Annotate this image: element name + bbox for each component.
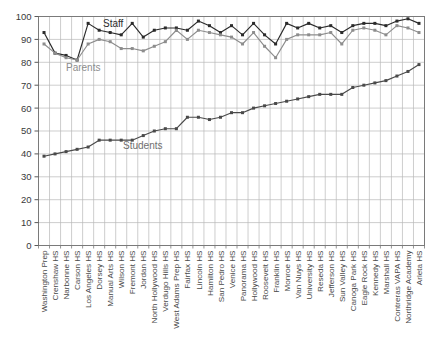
data-point-marker <box>175 29 178 32</box>
data-point-marker <box>54 152 57 155</box>
x-tick-label: Dorsey HS <box>95 250 104 290</box>
x-tick-label: Van Nuys HS <box>294 250 303 299</box>
series-annotation-staff: Staff <box>103 18 124 29</box>
x-tick-label: Roosevelt HS <box>261 250 270 300</box>
data-point-marker <box>131 22 134 25</box>
x-tick-label: San Pedro HS <box>217 250 226 302</box>
data-point-marker <box>142 49 145 52</box>
y-tick-label: 10 <box>21 217 32 228</box>
data-point-marker <box>197 20 200 23</box>
data-point-marker <box>142 134 145 137</box>
x-tick-label: Reseda HS <box>316 250 325 292</box>
data-point-marker <box>307 33 310 36</box>
data-point-marker <box>252 31 255 34</box>
data-point-marker <box>43 31 46 34</box>
x-tick-label: Crenshaw HS <box>51 250 60 301</box>
data-point-marker <box>252 22 255 25</box>
data-point-marker <box>395 20 398 23</box>
data-point-marker <box>219 33 222 36</box>
series-annotation-parents: Parents <box>66 62 100 73</box>
series-line <box>44 65 419 157</box>
data-point-marker <box>164 127 167 130</box>
data-point-marker <box>263 104 266 107</box>
x-tick-label: North Hollywood HS <box>150 250 159 323</box>
x-tick-label: Franklin HS <box>272 250 281 293</box>
data-point-marker <box>362 22 365 25</box>
data-point-marker <box>54 52 57 55</box>
data-point-marker <box>329 93 332 96</box>
data-point-marker <box>87 42 90 45</box>
x-tick-label: Kennedy HS <box>371 250 380 296</box>
data-point-marker <box>406 70 409 73</box>
data-point-marker <box>241 42 244 45</box>
series-students <box>43 63 421 158</box>
data-point-marker <box>76 148 79 151</box>
data-point-marker <box>98 139 101 142</box>
y-tick-label: 100 <box>16 11 32 22</box>
data-point-marker <box>318 26 321 29</box>
data-point-marker <box>197 116 200 119</box>
line-chart: 0102030405060708090100 StaffParentsStude… <box>0 0 431 352</box>
data-point-marker <box>131 47 134 50</box>
data-point-marker <box>340 42 343 45</box>
data-point-marker <box>197 29 200 32</box>
x-tick-label: Carson HS <box>73 250 82 290</box>
data-point-marker <box>186 116 189 119</box>
data-point-marker <box>263 33 266 36</box>
data-point-marker <box>65 150 68 153</box>
data-point-marker <box>263 45 266 48</box>
data-point-marker <box>87 22 90 25</box>
x-tick-label: Hamilton HS <box>206 250 215 296</box>
data-point-marker <box>164 40 167 43</box>
y-tick-label: 90 <box>21 34 32 45</box>
x-tick-label: Wilson HS <box>117 250 126 288</box>
x-tick-label: Monroe HS <box>283 250 292 292</box>
data-point-marker <box>43 155 46 158</box>
x-tick-label: Northridge Academy <box>404 250 413 324</box>
x-tick-label: Sun Valley HS <box>338 250 347 302</box>
axis-lines <box>35 17 425 249</box>
data-point-marker <box>98 29 101 32</box>
grid-lines <box>39 17 425 246</box>
data-point-marker <box>274 56 277 59</box>
data-point-marker <box>373 22 376 25</box>
y-tick-label: 50 <box>21 125 32 136</box>
data-point-marker <box>406 26 409 29</box>
x-tick-label: Los Angeles HS <box>84 250 93 308</box>
y-tick-label: 70 <box>21 80 32 91</box>
x-tick-label: Jordan HS <box>139 250 148 289</box>
x-tick-label: Fremont HS <box>128 250 137 294</box>
x-tick-label: Fairfax HS <box>183 250 192 289</box>
data-point-marker <box>362 26 365 29</box>
x-tick-label: Washington Prep <box>40 250 49 312</box>
data-point-marker <box>362 84 365 87</box>
chart-canvas: 0102030405060708090100 StaffParentsStude… <box>0 0 431 352</box>
data-point-marker <box>329 24 332 27</box>
data-point-marker <box>208 118 211 121</box>
data-point-marker <box>164 26 167 29</box>
data-point-marker <box>285 38 288 41</box>
data-point-marker <box>230 36 233 39</box>
data-point-marker <box>175 127 178 130</box>
data-point-marker <box>384 24 387 27</box>
y-tick-label: 20 <box>21 194 32 205</box>
data-point-marker <box>120 33 123 36</box>
x-tick-label: Narbonne HS <box>62 250 71 300</box>
data-point-marker <box>241 111 244 114</box>
data-point-marker <box>318 33 321 36</box>
data-point-marker <box>109 31 112 34</box>
x-tick-label: Canoga Park HS <box>349 250 358 311</box>
x-tick-label: Contreras VAPA HS <box>393 250 402 322</box>
data-point-marker <box>230 24 233 27</box>
y-tick-label: 60 <box>21 103 32 114</box>
data-point-marker <box>373 29 376 32</box>
data-point-marker <box>351 29 354 32</box>
x-tick-label: Lincoln HS <box>195 250 204 290</box>
data-point-marker <box>307 22 310 25</box>
data-point-marker <box>87 146 90 149</box>
data-point-marker <box>296 26 299 29</box>
data-point-marker <box>285 22 288 25</box>
x-tick-label: Jefferson HS <box>327 250 336 297</box>
data-point-marker <box>395 24 398 27</box>
y-tick-label: 40 <box>21 148 32 159</box>
